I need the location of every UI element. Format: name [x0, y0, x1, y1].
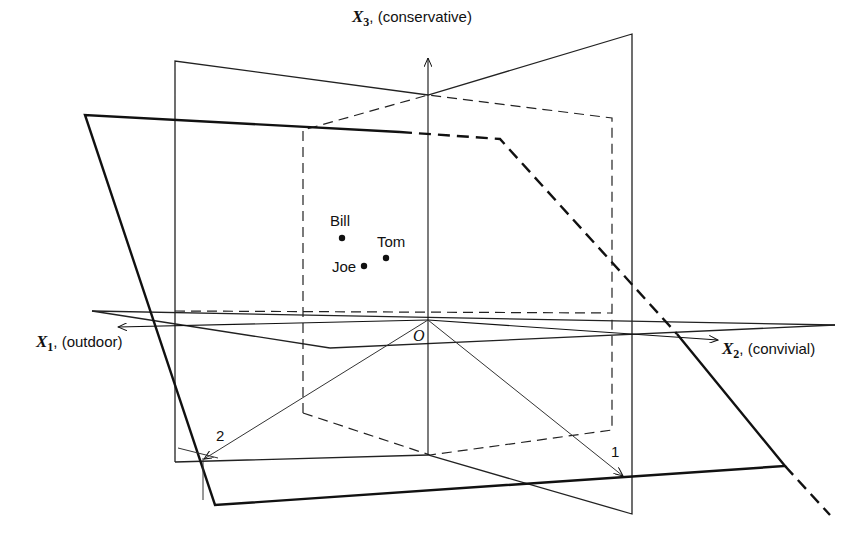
horizontal-plane-dashed-edge — [175, 311, 612, 313]
vector-1 — [428, 320, 623, 476]
x2-axis-label: X2, (convivial) — [722, 340, 815, 360]
x1-axis-label: X1, (outdoor) — [36, 333, 123, 353]
x2-symbol: X2 — [722, 339, 739, 358]
x1-axis — [118, 320, 428, 327]
x3-symbol: X3 — [352, 7, 369, 26]
diagram-canvas — [0, 0, 868, 544]
vector-2 — [204, 320, 428, 459]
vertical-plane — [175, 34, 632, 514]
dashed-plane — [303, 95, 612, 455]
x3-axis-label: X3, (conservative) — [352, 8, 472, 28]
point-joe — [361, 263, 367, 269]
point-label-tom: Tom — [377, 234, 405, 249]
vectors — [178, 320, 623, 500]
point-label-joe: Joe — [332, 259, 356, 274]
x1-text: , (outdoor) — [53, 333, 122, 350]
axes — [118, 58, 718, 455]
vector-label-2: 2 — [216, 428, 224, 443]
point-tom — [383, 255, 389, 261]
point-label-bill: Bill — [330, 213, 350, 228]
tilted-plane — [85, 115, 785, 505]
x3-text: , (conservative) — [369, 8, 472, 25]
origin-label: O — [413, 328, 425, 344]
point-bill — [339, 235, 345, 241]
vector-label-1: 1 — [611, 444, 619, 459]
x1-symbol: X1 — [36, 332, 53, 351]
x2-text: , (convivial) — [739, 340, 815, 357]
